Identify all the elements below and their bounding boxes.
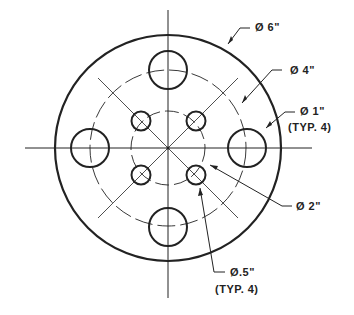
flange-drawing: [0, 0, 354, 315]
large-hole-diameter-label: Ø 1": [300, 105, 325, 117]
inner-circle-diameter-label: Ø 2": [296, 200, 321, 212]
small-hole-diameter-label: Ø.5": [230, 266, 255, 278]
small-hole: [187, 166, 206, 185]
small-hole: [187, 112, 206, 131]
large-hole-note: (TYP. 4): [288, 121, 332, 133]
small-hole-note: (TYP. 4): [215, 283, 259, 295]
bolt-circle-diameter-label: Ø 4": [290, 64, 315, 76]
outer-diameter-label: Ø 6": [255, 21, 280, 33]
